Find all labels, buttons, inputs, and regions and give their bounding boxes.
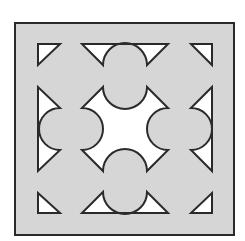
tile-pattern-svg bbox=[0, 0, 245, 241]
tile-pattern-figure bbox=[0, 0, 245, 241]
